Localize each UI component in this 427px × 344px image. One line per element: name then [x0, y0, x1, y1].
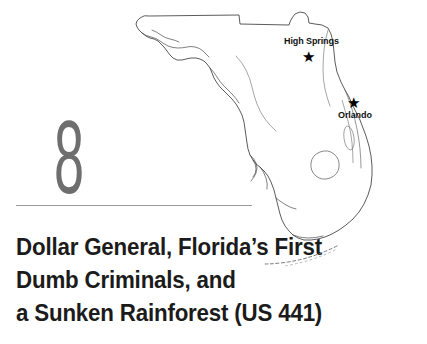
florida-state-outline	[136, 12, 372, 240]
florida-map-svg	[132, 0, 427, 290]
florida-map: ★ High Springs ★ Orlando	[132, 0, 427, 290]
lake-okeechobee	[311, 151, 339, 179]
star-icon-orlando: ★	[347, 96, 360, 111]
florida-keys-inner	[284, 250, 335, 266]
city-label-high-springs: High Springs	[284, 36, 339, 46]
city-label-orlando: Orlando	[338, 110, 372, 120]
chapter-number: 8	[40, 108, 97, 206]
star-icon-high-springs: ★	[302, 50, 315, 65]
book-chapter-opener-page: 8 Dollar General, Florida’s First Dumb C…	[0, 0, 427, 344]
florida-keys	[264, 246, 337, 264]
title-line-3: a Sunken Rainforest (US 441)	[16, 296, 286, 329]
